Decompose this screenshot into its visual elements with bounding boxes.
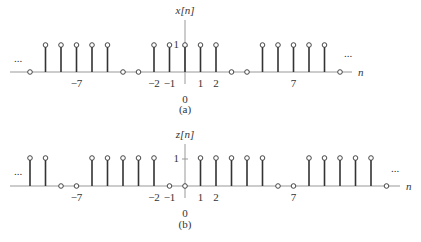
sample-marker	[183, 43, 188, 48]
sample-marker	[74, 43, 79, 48]
tick-label: 1	[198, 191, 204, 203]
tick-label: 2	[213, 191, 219, 203]
sample-marker	[43, 43, 48, 48]
sample-marker	[260, 43, 265, 48]
sample-marker	[229, 156, 234, 161]
sample-marker	[90, 156, 95, 161]
sample-marker	[307, 156, 312, 161]
signal-label: x[n]	[175, 4, 195, 16]
tick-label: −1	[164, 191, 176, 203]
zero-sample-marker	[136, 70, 141, 75]
ellipsis-left: ...	[14, 165, 23, 177]
tick-label: −2	[148, 191, 160, 203]
sample-marker	[28, 156, 33, 161]
tick-label: 7	[291, 77, 297, 89]
sample-marker	[353, 156, 358, 161]
tick-label: 7	[291, 191, 297, 203]
sample-marker	[307, 43, 312, 48]
tick-label: 2	[213, 77, 219, 89]
sample-marker	[369, 156, 374, 161]
signal-label: z[n]	[175, 128, 194, 140]
sample-marker	[291, 43, 296, 48]
zero-sample-marker	[28, 70, 33, 75]
sample-marker	[198, 156, 203, 161]
tick-label: −1	[164, 77, 176, 89]
sample-marker	[90, 43, 95, 48]
sample-marker	[214, 43, 219, 48]
sample-marker	[322, 156, 327, 161]
sample-marker	[136, 156, 141, 161]
sample-marker	[198, 43, 203, 48]
tick-label: 1	[198, 77, 204, 89]
sample-marker	[214, 156, 219, 161]
figure: 1x[n]n......−7−2−10127(a) 1z[n]n......−7…	[0, 0, 421, 242]
sample-marker	[322, 43, 327, 48]
panel-b: 1z[n]n......−7−2−10127(b)	[10, 128, 412, 231]
ellipsis-right: ...	[344, 47, 353, 59]
sample-marker	[245, 156, 250, 161]
sample-marker	[43, 156, 48, 161]
zero-sample-marker	[384, 184, 389, 189]
panel-a: 1x[n]n......−7−2−10127(a)	[10, 4, 364, 116]
tick-label: −2	[148, 77, 160, 89]
axis-label: n	[358, 66, 364, 78]
panel-caption: (a)	[179, 103, 192, 116]
ellipsis-left: ...	[14, 52, 23, 64]
zero-sample-marker	[338, 70, 343, 75]
ellipsis-right: ...	[391, 162, 400, 174]
zero-sample-marker	[74, 184, 79, 189]
sample-marker	[121, 156, 126, 161]
zero-sample-marker	[229, 70, 234, 75]
zero-sample-marker	[183, 184, 188, 189]
zero-sample-marker	[291, 184, 296, 189]
tick-label: −7	[71, 77, 83, 89]
sample-marker	[260, 156, 265, 161]
sample-marker	[276, 43, 281, 48]
zero-sample-marker	[167, 184, 172, 189]
zero-sample-marker	[245, 70, 250, 75]
tick-label: −7	[71, 191, 83, 203]
zero-sample-marker	[121, 70, 126, 75]
panel-caption: (b)	[179, 218, 192, 231]
zero-sample-marker	[59, 184, 64, 189]
amplitude-label: 1	[174, 38, 180, 50]
sample-marker	[105, 156, 110, 161]
sample-marker	[152, 156, 157, 161]
zero-sample-marker	[276, 184, 281, 189]
axis-label: n	[406, 180, 412, 192]
amplitude-label: 1	[174, 152, 180, 164]
sample-marker	[105, 43, 110, 48]
sample-marker	[152, 43, 157, 48]
sample-marker	[59, 43, 64, 48]
sample-marker	[167, 43, 172, 48]
sample-marker	[338, 156, 343, 161]
